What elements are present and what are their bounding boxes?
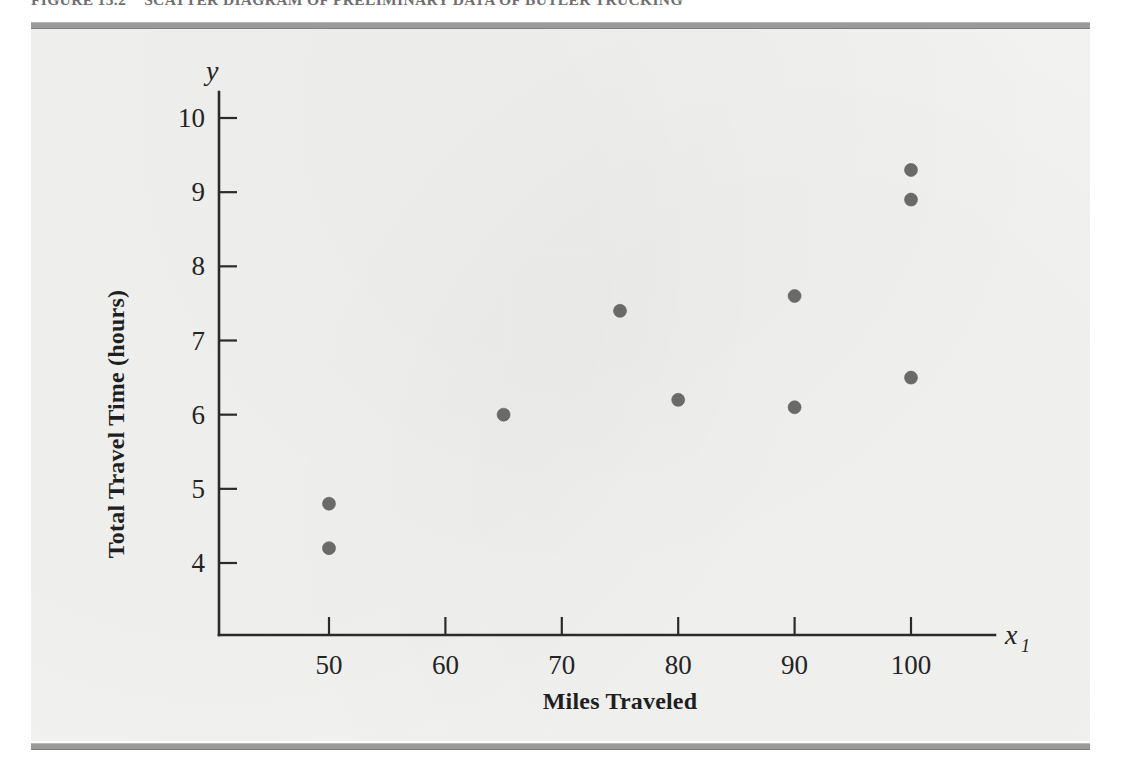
figure-plate (31, 29, 1090, 741)
figure-caption: FIGURE 15.2SCATTER DIAGRAM OF PRELIMINAR… (31, 0, 1091, 11)
figure-caption-text: SCATTER DIAGRAM OF PRELIMINARY DATA OF B… (144, 0, 683, 8)
figure-rule-top (31, 22, 1090, 29)
figure-caption-number: FIGURE 15.2 (31, 0, 126, 8)
figure-rule-bottom (31, 743, 1090, 750)
